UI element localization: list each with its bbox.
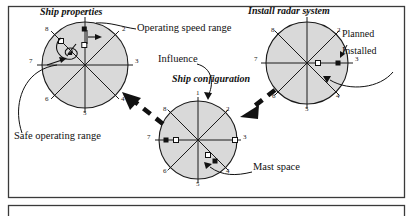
diagram-canvas: Ship properties Install radar system Shi…: [0, 0, 412, 216]
title-ship-configuration: Ship configuration: [172, 74, 250, 84]
label-mast-space: Mast space: [253, 162, 300, 173]
marker-planned-cfg-axis3: [233, 138, 238, 143]
axis-num-cfg-2: 2: [226, 106, 230, 113]
axis-num-rd-5: 5: [305, 106, 309, 113]
axis-num-cfg-1: 1: [196, 90, 200, 97]
axis-num-rd-2: 2: [337, 27, 341, 34]
title-install-radar-system: Install radar system: [248, 6, 330, 16]
lower-panel-border: [9, 206, 405, 217]
marker-planned-radar-axis3: [316, 61, 321, 66]
axis-num-sp-3: 3: [135, 58, 139, 65]
axis-num-sp-6: 6: [45, 96, 49, 103]
legend-label-installed: Installed: [342, 46, 376, 56]
axis-num-rd-3: 3: [355, 56, 359, 63]
marker-installed-cfg-axis7: [164, 138, 169, 143]
axis-num-cfg-6: 6: [163, 168, 167, 175]
marker-planned-axis1: [82, 43, 87, 48]
axis-num-rd-7: 7: [254, 56, 258, 63]
axis-num-sp-7: 7: [29, 58, 33, 65]
axis-num-rd-8: 8: [271, 27, 275, 34]
label-operating-speed-range: Operating speed range: [137, 23, 231, 34]
label-safe-operating-range: Safe operating range: [14, 131, 101, 142]
axis-num-rd-1: 1: [305, 10, 309, 17]
marker-installed-radar-axis3: [336, 61, 341, 66]
axis-num-rd-4: 4: [336, 93, 340, 100]
radar-chart-ship-properties: [37, 17, 133, 113]
title-ship-properties: Ship properties: [40, 7, 103, 17]
label-influence: Influence: [158, 54, 198, 65]
marker-planned-cfg-axis4: [206, 153, 211, 158]
axis-num-sp-8: 8: [45, 26, 49, 33]
axis-num-cfg-7: 7: [147, 134, 151, 141]
marker-planned-cfg-axis7: [174, 138, 179, 143]
axis-num-cfg-5: 5: [196, 181, 200, 188]
legend-label-planned: Planned: [342, 29, 374, 39]
axis-num-sp-4: 4: [121, 96, 125, 103]
axis-num-rd-6: 6: [272, 93, 276, 100]
axis-num-sp-1: 1: [83, 10, 87, 17]
axis-num-cfg-8: 8: [163, 106, 167, 113]
axis-num-cfg-3: 3: [243, 134, 247, 141]
axis-num-cfg-4: 4: [226, 168, 230, 175]
axis-num-sp-5: 5: [83, 110, 87, 117]
marker-installed-axis1: [82, 27, 87, 32]
marker-installed-cfg-axis4: [213, 159, 218, 164]
axis-num-sp-2: 2: [122, 26, 126, 33]
